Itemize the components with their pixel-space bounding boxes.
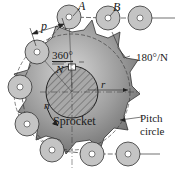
roller-left-1 [25,40,49,64]
roller-a-label: A [78,0,85,12]
roller-left-3 [15,112,39,136]
radius-label: r [101,79,105,90]
angle-full-numerator: 360° [52,50,73,62]
angle-full-denominator: N [56,64,63,75]
pitch-circle-label-1: Pitch [140,113,163,124]
roller-b-label: B [113,1,120,13]
pitch-label: p [41,20,47,32]
roller-free-top [128,6,152,30]
roller-bottom-2 [80,142,104,166]
sprocket-chain-diagram [0,0,175,176]
speed-label: n [44,100,50,111]
roller-bottom-1 [40,138,64,162]
pitch-circle-label-2: circle [140,126,164,137]
roller-free-bottom [116,142,140,166]
angle-half-label: 180°/N [136,52,168,63]
sprocket-label: Sprocket [53,115,96,127]
roller-left-2 [8,75,32,99]
